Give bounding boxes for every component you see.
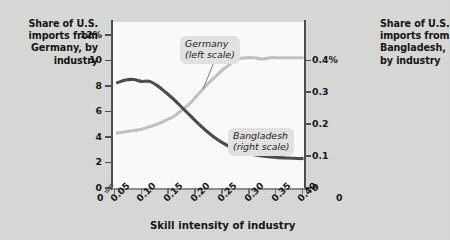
chart-figure: Share of U.S. imports from Germany, by i… [0,0,450,240]
germany-label-line2: (left scale) [185,49,235,60]
germany-series-label: Germany (left scale) [180,36,240,64]
germany-label-line1: Germany [185,38,235,49]
bangladesh-label-line2: (right scale) [233,141,289,152]
x-axis-title: Skill intensity of industry [150,220,380,231]
germany-line [117,58,302,133]
bangladesh-series-label: Bangladesh (right scale) [228,128,294,156]
bangladesh-label-line1: Bangladesh [233,130,289,141]
